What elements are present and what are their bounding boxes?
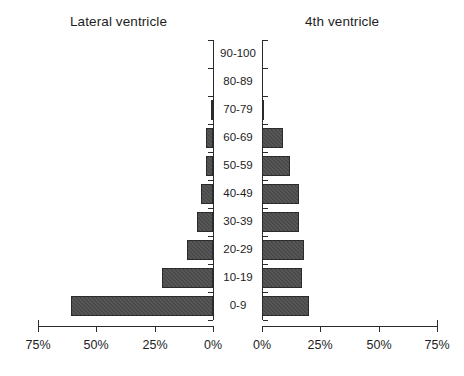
value-tick xyxy=(320,326,321,332)
category-tick xyxy=(208,68,213,69)
bar-lateral-20-29 xyxy=(187,240,213,260)
bar-row xyxy=(38,68,213,96)
value-label-0%: 0% xyxy=(239,338,285,352)
bar-row xyxy=(262,124,437,152)
value-tick xyxy=(96,326,97,332)
bar-lateral-40-49 xyxy=(201,184,213,204)
category-tick xyxy=(208,208,213,209)
value-label-25%: 25% xyxy=(132,338,178,352)
bar-lateral-50-59 xyxy=(206,156,213,176)
category-tick xyxy=(208,96,213,97)
category-tick xyxy=(208,180,213,181)
bar-lateral-30-39 xyxy=(197,212,213,232)
bar-row xyxy=(262,68,437,96)
category-label-10-19: 10-19 xyxy=(214,271,262,283)
category-tick xyxy=(263,292,268,293)
category-tick xyxy=(263,124,268,125)
bar-row xyxy=(38,96,213,124)
value-label-50%: 50% xyxy=(73,338,119,352)
value-label-50%: 50% xyxy=(356,338,402,352)
bar-4th-0-9 xyxy=(262,296,309,316)
value-tick xyxy=(155,326,156,332)
bar-lateral-10-19 xyxy=(162,268,213,288)
category-tick xyxy=(208,292,213,293)
bar-4th-10-19 xyxy=(262,268,302,288)
right-value-axis xyxy=(262,326,438,327)
category-label-60-69: 60-69 xyxy=(214,131,262,143)
bar-row xyxy=(38,180,213,208)
value-label-75%: 75% xyxy=(15,338,61,352)
left-panel-title: Lateral ventricle xyxy=(70,14,167,29)
category-tick xyxy=(263,96,268,97)
bar-row xyxy=(262,40,437,68)
bar-row xyxy=(38,264,213,292)
category-tick xyxy=(263,264,268,265)
category-label-30-39: 30-39 xyxy=(214,215,262,227)
bar-row xyxy=(38,236,213,264)
bar-row xyxy=(262,180,437,208)
category-tick xyxy=(208,124,213,125)
category-tick xyxy=(208,152,213,153)
category-tick xyxy=(208,264,213,265)
category-label-20-29: 20-29 xyxy=(214,243,262,255)
bar-row xyxy=(38,124,213,152)
bar-row xyxy=(262,264,437,292)
bar-row xyxy=(38,292,213,320)
bar-row xyxy=(262,236,437,264)
bar-4th-50-59 xyxy=(262,156,290,176)
category-tick xyxy=(263,208,268,209)
value-axis-endcap xyxy=(38,320,39,326)
category-tick xyxy=(208,236,213,237)
value-axis-endcap xyxy=(437,320,438,326)
bar-4th-20-29 xyxy=(262,240,304,260)
right-panel-title: 4th ventricle xyxy=(305,14,379,29)
value-label-75%: 75% xyxy=(414,338,460,352)
value-label-25%: 25% xyxy=(297,338,343,352)
bar-row xyxy=(38,40,213,68)
bar-4th-30-39 xyxy=(262,212,299,232)
category-label-80-89: 80-89 xyxy=(214,75,262,87)
value-tick xyxy=(379,326,380,332)
category-tick xyxy=(208,320,213,321)
value-label-0%: 0% xyxy=(190,338,236,352)
bar-row xyxy=(262,208,437,236)
bar-row xyxy=(38,152,213,180)
category-tick xyxy=(263,180,268,181)
bar-4th-40-49 xyxy=(262,184,299,204)
left-value-axis xyxy=(38,326,214,327)
bar-lateral-0-9 xyxy=(71,296,213,316)
category-tick xyxy=(208,40,213,41)
bar-4th-60-69 xyxy=(262,128,283,148)
category-tick xyxy=(263,68,268,69)
category-label-40-49: 40-49 xyxy=(214,187,262,199)
population-pyramid-chart: Lateral ventricle 4th ventricle 90-10080… xyxy=(0,0,464,376)
value-tick xyxy=(437,326,438,332)
value-tick xyxy=(213,326,214,332)
category-tick xyxy=(263,236,268,237)
right-plot-area xyxy=(262,40,437,320)
left-plot-area xyxy=(38,40,213,320)
category-label-0-9: 0-9 xyxy=(214,299,262,311)
category-label-70-79: 70-79 xyxy=(214,103,262,115)
bar-row xyxy=(262,292,437,320)
category-tick xyxy=(263,320,268,321)
bar-lateral-60-69 xyxy=(206,128,213,148)
category-tick xyxy=(263,152,268,153)
category-label-50-59: 50-59 xyxy=(214,159,262,171)
value-tick xyxy=(38,326,39,332)
bar-row xyxy=(38,208,213,236)
category-label-90-100: 90-100 xyxy=(214,47,262,59)
category-tick xyxy=(263,40,268,41)
value-tick xyxy=(262,326,263,332)
bar-row xyxy=(262,96,437,124)
bar-row xyxy=(262,152,437,180)
